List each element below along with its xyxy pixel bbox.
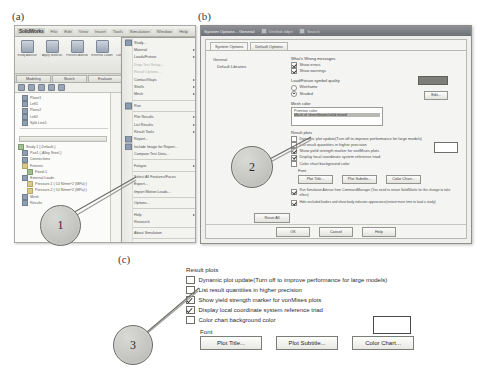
ribbon-button-study-advisor[interactable]: Study Advisor [17, 40, 37, 58]
menu-item-label: Report... [134, 137, 148, 141]
menu-item-plot-results[interactable]: Plot Results [122, 114, 196, 121]
checkbox-higher-precision[interactable] [186, 286, 195, 295]
checkbox-label: List result quantities in higher precisi… [199, 285, 302, 295]
background-color-swatch[interactable] [434, 142, 458, 153]
color-chart-button[interactable]: Color Chart... [352, 336, 414, 350]
dimxpert-manager-icon[interactable] [48, 84, 55, 91]
checkbox-row-dynamic-plot-update[interactable]: Dynamic plot update(Turn off to improve … [186, 275, 436, 285]
cancel-button[interactable]: Cancel [319, 227, 353, 237]
checkbox-row-higher-precision[interactable]: List result quantities in higher precisi… [186, 285, 436, 295]
simulation-dropdown-menu[interactable]: Study... Material Loads/Fixture Drop Tes… [121, 37, 196, 243]
property-manager-icon[interactable] [28, 84, 35, 91]
dialog-tabs[interactable]: System Options Default Options [206, 40, 466, 51]
mesh-list-item-selected[interactable]: Mesh of sheet/beam/solid mixed [294, 113, 380, 117]
menu-item-mesh[interactable]: Mesh [122, 91, 196, 98]
menu-item-select-all-features-faces[interactable]: Select All Features/Faces [122, 173, 196, 180]
menu-item-contact-gaps[interactable]: Contact/Gaps [122, 76, 196, 83]
menu-item-compare-test-data[interactable]: Compare Test Data... [122, 150, 196, 157]
background-color-swatch[interactable] [373, 316, 411, 334]
checkbox-reference-triad[interactable] [291, 155, 297, 161]
menu-item-material[interactable]: Material [122, 46, 196, 53]
ribbon-button-fixtures-advisor[interactable]: Fixtures Advisor [67, 40, 87, 58]
plot-title-button[interactable]: Plot Title... [200, 336, 262, 350]
menu-item-list-results[interactable]: List Results [122, 121, 196, 128]
titlebar-search-chip[interactable]: Search [299, 28, 320, 34]
tab-system-options[interactable]: System Options [210, 42, 248, 50]
menubar-item-file[interactable]: File [48, 29, 59, 34]
edit-button[interactable]: Edit... [424, 91, 448, 100]
mesh-color-list[interactable]: Primitive color Mesh of sheet/beam/solid… [291, 107, 383, 126]
menu-item-customize-menu[interactable]: Customize Menu [122, 241, 196, 243]
menu-item-include-image-for-report[interactable]: Include Image for Report... [122, 143, 196, 150]
checkbox-show-warnings[interactable] [291, 68, 297, 74]
menubar-item-view[interactable]: View [77, 29, 90, 34]
checkbox-row-hide-excluded-bodies[interactable]: Hide excluded bodies and show body indic… [291, 200, 460, 207]
checkbox-color-chart-background[interactable] [291, 161, 297, 167]
ribbon-button-external-loads[interactable]: External Loads [92, 40, 112, 58]
tab-evaluate[interactable]: Evaluate [88, 75, 123, 82]
menu-item-import-motion-loads[interactable]: Import Motion Loads... [122, 188, 196, 195]
plot-subtitle-button[interactable]: Plot Subtitle... [276, 336, 338, 350]
menu-item-about-simulation[interactable]: About Simulation [122, 230, 196, 237]
help-button[interactable]: Help [362, 227, 396, 237]
display-manager-icon[interactable] [58, 84, 65, 91]
options-tree-item-general[interactable]: General [213, 56, 287, 63]
checkbox-show-errors[interactable] [291, 62, 297, 68]
menu-item-export[interactable]: Export... [122, 181, 196, 188]
checkbox-dynamic-plot-update[interactable] [186, 276, 195, 285]
chevron-right-icon [193, 56, 195, 58]
checkbox-simulation-advisor[interactable] [291, 189, 297, 195]
menubar-item-edit[interactable]: Edit [62, 29, 73, 34]
options-panel: What's Wrong messages Show errors Show w… [287, 51, 466, 221]
tab-default-options[interactable]: Default Options [250, 42, 288, 50]
checkbox-yield-strength-marker[interactable] [186, 296, 195, 305]
mesh-color-swatch[interactable] [418, 76, 448, 85]
checkbox-hide-excluded-bodies[interactable] [291, 200, 297, 206]
feature-manager-icon[interactable] [18, 84, 25, 91]
menu-item-fatigue[interactable]: Fatigue [122, 162, 196, 169]
menu-item-help[interactable]: Help [122, 211, 196, 218]
tree-item[interactable]: Split Line1 [18, 120, 110, 126]
checkbox-reference-triad[interactable] [186, 306, 195, 315]
menu-item-drop-test-setup: Drop Test Setup... [122, 61, 196, 68]
menu-item-shells[interactable]: Shells [122, 83, 196, 90]
menu-item-run[interactable]: Run [122, 102, 196, 109]
menu-item-label: Research [134, 220, 150, 224]
menu-item-result-tools[interactable]: Result Tools [122, 128, 196, 135]
checkbox-row-color-chart-background[interactable]: Color chart background color [291, 161, 460, 167]
plot-title-button[interactable]: Plot Title... [298, 175, 333, 185]
tab-sketch[interactable]: Sketch [52, 75, 87, 82]
checkbox-row-simulation-advisor[interactable]: Run Simulation Advisor from CommandManag… [291, 188, 460, 198]
tab-modeling[interactable]: Modeling [16, 75, 51, 82]
menu-item-loads-fixture[interactable]: Loads/Fixture [122, 54, 196, 61]
menubar-item-insert[interactable]: Insert [93, 29, 108, 34]
menu-item-research[interactable]: Research [122, 218, 196, 225]
ok-button[interactable]: OK [276, 227, 310, 237]
reset-all-button[interactable]: Reset All [254, 213, 290, 223]
radio-wireframe[interactable] [291, 85, 297, 91]
menubar-item-window[interactable]: Window [155, 29, 174, 34]
menu-item-report[interactable]: Report... [122, 136, 196, 143]
options-tree[interactable]: General Default Libraries [206, 51, 287, 221]
radio-shaded[interactable] [291, 91, 297, 97]
plot-subtitle-button[interactable]: Plot Subtitle... [342, 175, 377, 185]
menubar-item-simulation[interactable]: Simulation [128, 29, 152, 34]
configuration-manager-icon[interactable] [38, 84, 45, 91]
options-tree-item-default-libraries[interactable]: Default Libraries [213, 63, 287, 70]
menubar-item-help[interactable]: Help [177, 29, 190, 34]
checkbox-row-yield-strength-marker[interactable]: Show yield strength marker for vonMises … [186, 295, 436, 305]
menu-item-study[interactable]: Study... [122, 39, 196, 46]
tree-scrollbar[interactable] [19, 136, 107, 142]
menu-item-label: Compare Test Data... [134, 152, 169, 156]
menubar[interactable]: File Edit View Insert Tools Simulation W… [48, 29, 193, 34]
checkbox-row-reference-triad[interactable]: Display local coordinate system referenc… [186, 305, 436, 315]
ribbon-button-apply-material[interactable]: Apply Material [42, 40, 62, 58]
menu-item-label: Material [134, 48, 147, 52]
menu-item-options[interactable]: Options... [122, 199, 196, 206]
color-chart-button[interactable]: Color Chart... [386, 175, 421, 185]
menu-item-label: Shells [134, 85, 144, 89]
checkbox-higher-precision[interactable] [291, 142, 297, 148]
checkbox-dynamic-plot-update[interactable] [291, 136, 297, 142]
menubar-item-tools[interactable]: Tools [111, 29, 125, 34]
checkbox-color-chart-background[interactable] [186, 316, 195, 325]
